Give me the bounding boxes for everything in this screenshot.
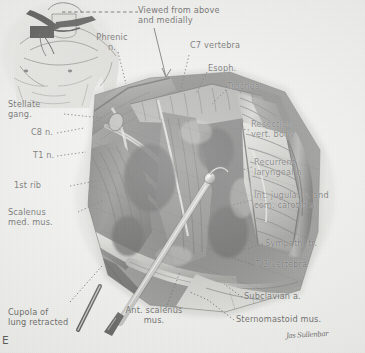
label-c7-vertebra: C7 vertebra [190,41,240,51]
label-t1-nerve: T1 n. [33,151,54,161]
figure-letter: E [2,334,9,346]
label-scalenus-medius-muscle: Scalenus med. mus. [8,208,53,227]
label-sternomastoid-muscle: Sternomastoid mus. [236,315,321,325]
label-recurrent-laryngeal-nerve: Recurrent laryngeal n. [254,158,304,177]
label-t3-vertebra: T 3 vertebra [255,260,307,270]
label-trachea: Trachea [227,82,260,92]
retractor-instrument [78,286,100,330]
label-orientation: Viewed from above and medially [138,6,220,25]
label-cupola-of-lung: Cupola of lung retracted [8,308,68,327]
label-ant-scalenus-muscle: Ant. scalenus mus. [118,306,190,325]
label-resection-vert-body: Resection vert. body [251,120,294,139]
label-esophagus: Esoph. [208,64,236,74]
label-first-rib: 1st rib [14,181,41,191]
label-int-jugular-com-carotid: Int. jugular v. and com. carotid a. [254,191,329,210]
illustration-artwork [0,0,365,353]
label-c8-nerve: C8 n. [31,128,53,138]
anatomical-figure: Viewed from above and medially Phrenic n… [0,0,365,353]
label-phrenic-nerve: Phrenic n. [91,33,133,52]
label-stellate-ganglion: Stellate gang. [8,100,40,119]
label-sympathetic-trunk: Sympath. tr. [265,239,317,249]
label-subclavian-artery: Subclavian a. [244,292,301,302]
